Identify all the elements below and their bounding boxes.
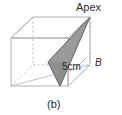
vertex-b-label: B (95, 58, 102, 68)
cuboid-diagram (0, 0, 122, 115)
shaded-triangle-group (48, 17, 90, 86)
apex-label: Apex (76, 2, 101, 13)
geometry-figure: Apex 5cm B (b) (0, 0, 122, 115)
shaded-triangle-upper (48, 17, 90, 86)
edge-length-label: 5cm (62, 62, 81, 72)
figure-caption: (b) (47, 99, 60, 110)
